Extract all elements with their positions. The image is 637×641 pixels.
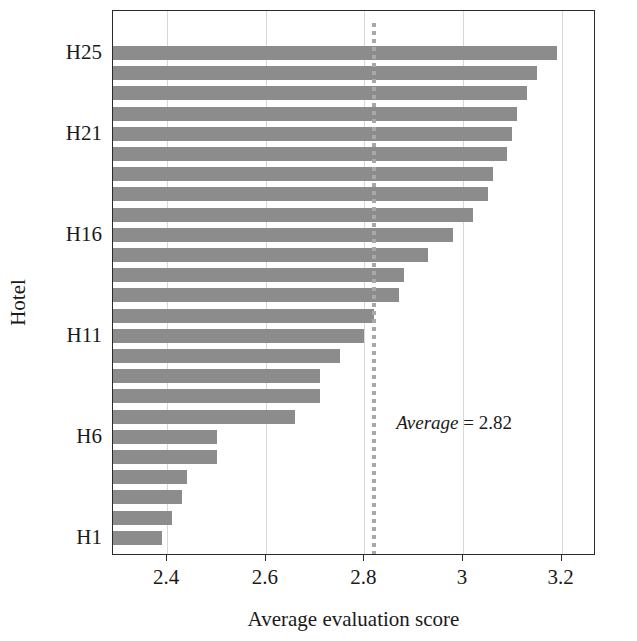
x-tick-label-2.4: 2.4 — [153, 565, 179, 590]
bar-H6 — [113, 430, 217, 444]
x-tick-label-2.8: 2.8 — [350, 565, 376, 590]
bar-H8 — [113, 389, 320, 403]
bar-fill — [113, 268, 404, 282]
bar-fill — [113, 490, 182, 504]
bars-group — [113, 11, 594, 554]
bar-fill — [113, 450, 217, 464]
bar-chart-figure: Average = 2.82 2.42.62.833.2 H25H21H16H1… — [0, 0, 637, 641]
bar-fill — [113, 86, 527, 100]
x-tick-mark-2.8 — [363, 555, 364, 561]
x-tick-label-3.2: 3.2 — [547, 565, 573, 590]
bar-fill — [113, 531, 162, 545]
bar-fill — [113, 127, 512, 141]
bar-H16 — [113, 228, 453, 242]
average-reference-line — [372, 23, 376, 554]
y-axis-title: Hotel — [6, 213, 31, 393]
x-tick-label-3: 3 — [457, 565, 468, 590]
bar-fill — [113, 369, 320, 383]
y-tick-label-H6: H6 — [76, 423, 102, 448]
bar-H1 — [113, 531, 162, 545]
bar-H5 — [113, 450, 217, 464]
bar-H20 — [113, 147, 507, 161]
bar-fill — [113, 410, 295, 424]
bar-fill — [113, 470, 187, 484]
bar-H17 — [113, 208, 473, 222]
bar-fill — [113, 208, 473, 222]
bar-H22 — [113, 107, 517, 121]
bar-H24 — [113, 66, 537, 80]
bar-H2 — [113, 511, 172, 525]
bar-H12 — [113, 309, 374, 323]
bar-fill — [113, 228, 453, 242]
y-tick-label-H21: H21 — [66, 120, 102, 145]
bar-H3 — [113, 490, 182, 504]
bar-H4 — [113, 470, 187, 484]
x-tick-mark-2.6 — [265, 555, 266, 561]
average-annotation-value: = 2.82 — [463, 412, 512, 433]
bar-fill — [113, 66, 537, 80]
x-axis-title: Average evaluation score — [112, 607, 595, 632]
x-tick-mark-3 — [462, 555, 463, 561]
x-tick-label-2.6: 2.6 — [252, 565, 278, 590]
y-tick-label-H16: H16 — [66, 221, 102, 246]
bar-fill — [113, 511, 172, 525]
y-tick-label-H25: H25 — [66, 40, 102, 65]
bar-H10 — [113, 349, 340, 363]
bar-fill — [113, 46, 557, 60]
bar-fill — [113, 329, 364, 343]
bar-fill — [113, 167, 493, 181]
x-tick-mark-2.4 — [166, 555, 167, 561]
bar-fill — [113, 187, 488, 201]
bar-fill — [113, 248, 428, 262]
bar-fill — [113, 430, 217, 444]
x-tick-mark-3.2 — [561, 555, 562, 561]
bar-H14 — [113, 268, 404, 282]
bar-fill — [113, 107, 517, 121]
bar-H13 — [113, 288, 399, 302]
plot-area: Average = 2.82 — [112, 10, 595, 555]
bar-H7 — [113, 410, 295, 424]
bar-H23 — [113, 86, 527, 100]
bar-H18 — [113, 187, 488, 201]
average-annotation-word: Average — [396, 412, 458, 433]
bar-H19 — [113, 167, 493, 181]
bar-H21 — [113, 127, 512, 141]
bar-H15 — [113, 248, 428, 262]
bar-H25 — [113, 46, 557, 60]
y-tick-label-H11: H11 — [67, 322, 102, 347]
bar-fill — [113, 147, 507, 161]
average-annotation-label: Average = 2.82 — [396, 412, 512, 434]
bar-fill — [113, 309, 374, 323]
bar-fill — [113, 288, 399, 302]
bar-H11 — [113, 329, 364, 343]
bar-H9 — [113, 369, 320, 383]
bar-fill — [113, 349, 340, 363]
bar-fill — [113, 389, 320, 403]
y-tick-label-H1: H1 — [76, 524, 102, 549]
